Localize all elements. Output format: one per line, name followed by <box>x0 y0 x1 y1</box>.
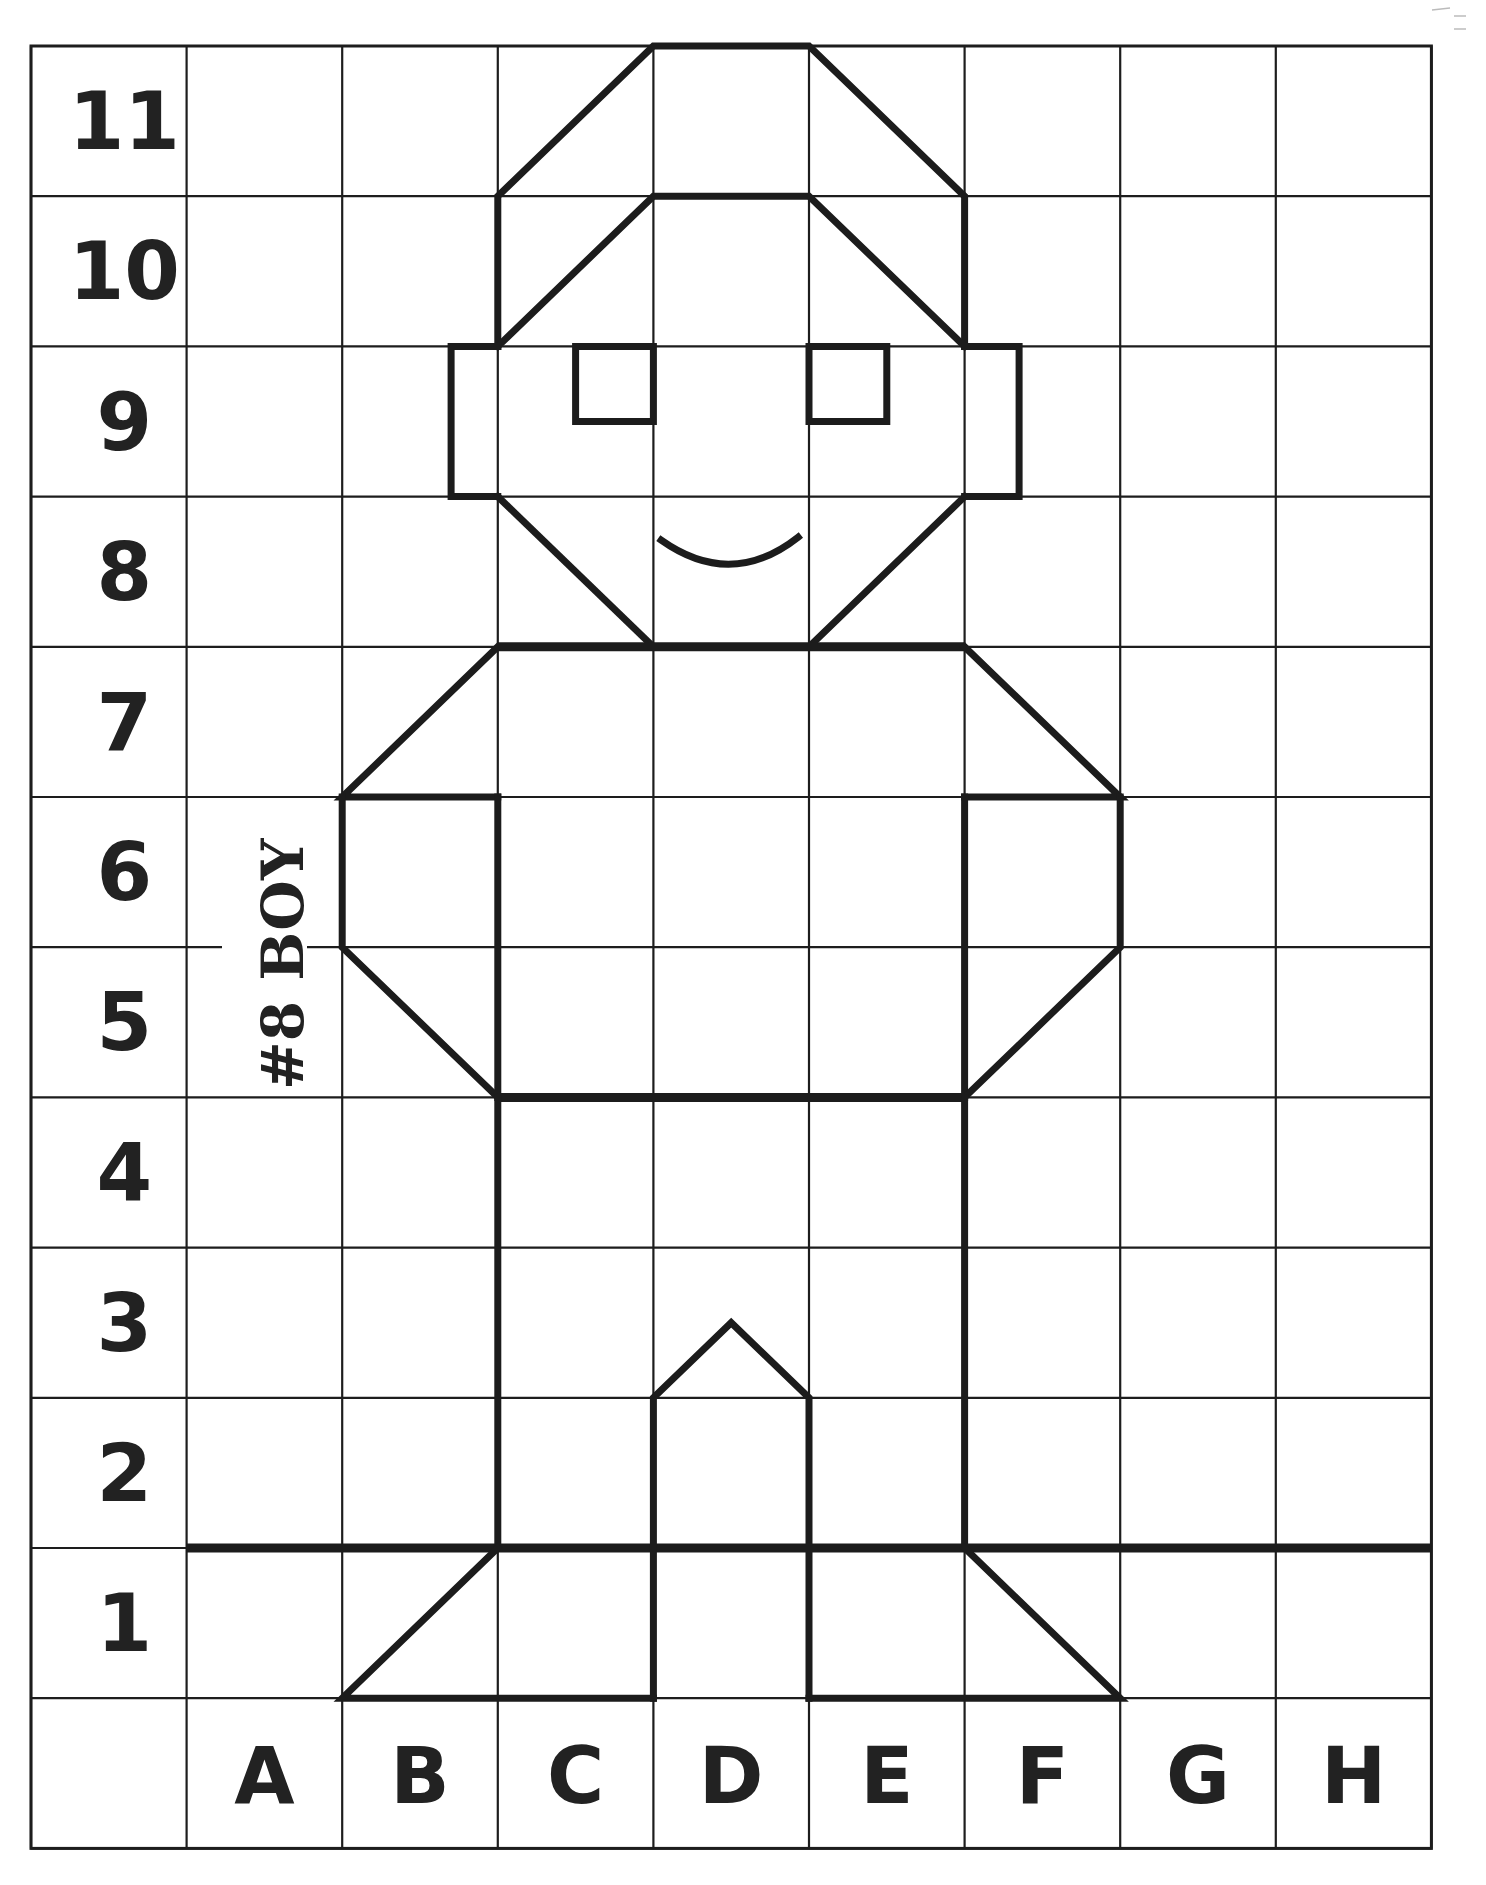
column-label: H <box>1321 1731 1386 1821</box>
chin-left <box>498 497 654 647</box>
column-label: C <box>547 1731 604 1821</box>
title-label: #8 BOY <box>249 838 317 1090</box>
row-label: 11 <box>69 75 180 168</box>
column-label: B <box>390 1731 449 1821</box>
column-label: D <box>699 1731 764 1821</box>
row-labels: 1110987654321 <box>69 75 180 1670</box>
left-ear <box>451 346 498 496</box>
hair-outline <box>498 196 965 346</box>
scan-marks <box>1432 8 1466 29</box>
row-label: 10 <box>69 225 180 318</box>
row-label: 9 <box>97 376 153 469</box>
worksheet: 1110987654321 ABCDEFGH #8 BOY <box>0 0 1486 1885</box>
column-labels: ABCDEFGH <box>234 1731 1386 1821</box>
chin-right <box>809 497 965 647</box>
right-eye <box>809 346 887 421</box>
worksheet-title: #8 BOY <box>222 800 317 1095</box>
row-label: 2 <box>97 1427 153 1520</box>
crotch-outline <box>653 1323 809 1699</box>
row-label: 5 <box>97 976 153 1069</box>
right-shoulder <box>965 647 1121 797</box>
column-label: E <box>860 1731 913 1821</box>
row-label: 4 <box>97 1127 153 1220</box>
left-shoulder <box>342 647 498 797</box>
column-label: F <box>1016 1731 1069 1821</box>
row-label: 7 <box>97 676 153 769</box>
row-label: 1 <box>97 1577 153 1670</box>
row-label: 3 <box>97 1277 153 1370</box>
column-label: G <box>1166 1731 1230 1821</box>
right-ear <box>965 346 1020 496</box>
left-eye <box>576 346 654 421</box>
row-label: 8 <box>97 526 153 619</box>
column-label: A <box>234 1731 294 1821</box>
smile <box>661 537 798 564</box>
row-label: 6 <box>97 826 153 919</box>
